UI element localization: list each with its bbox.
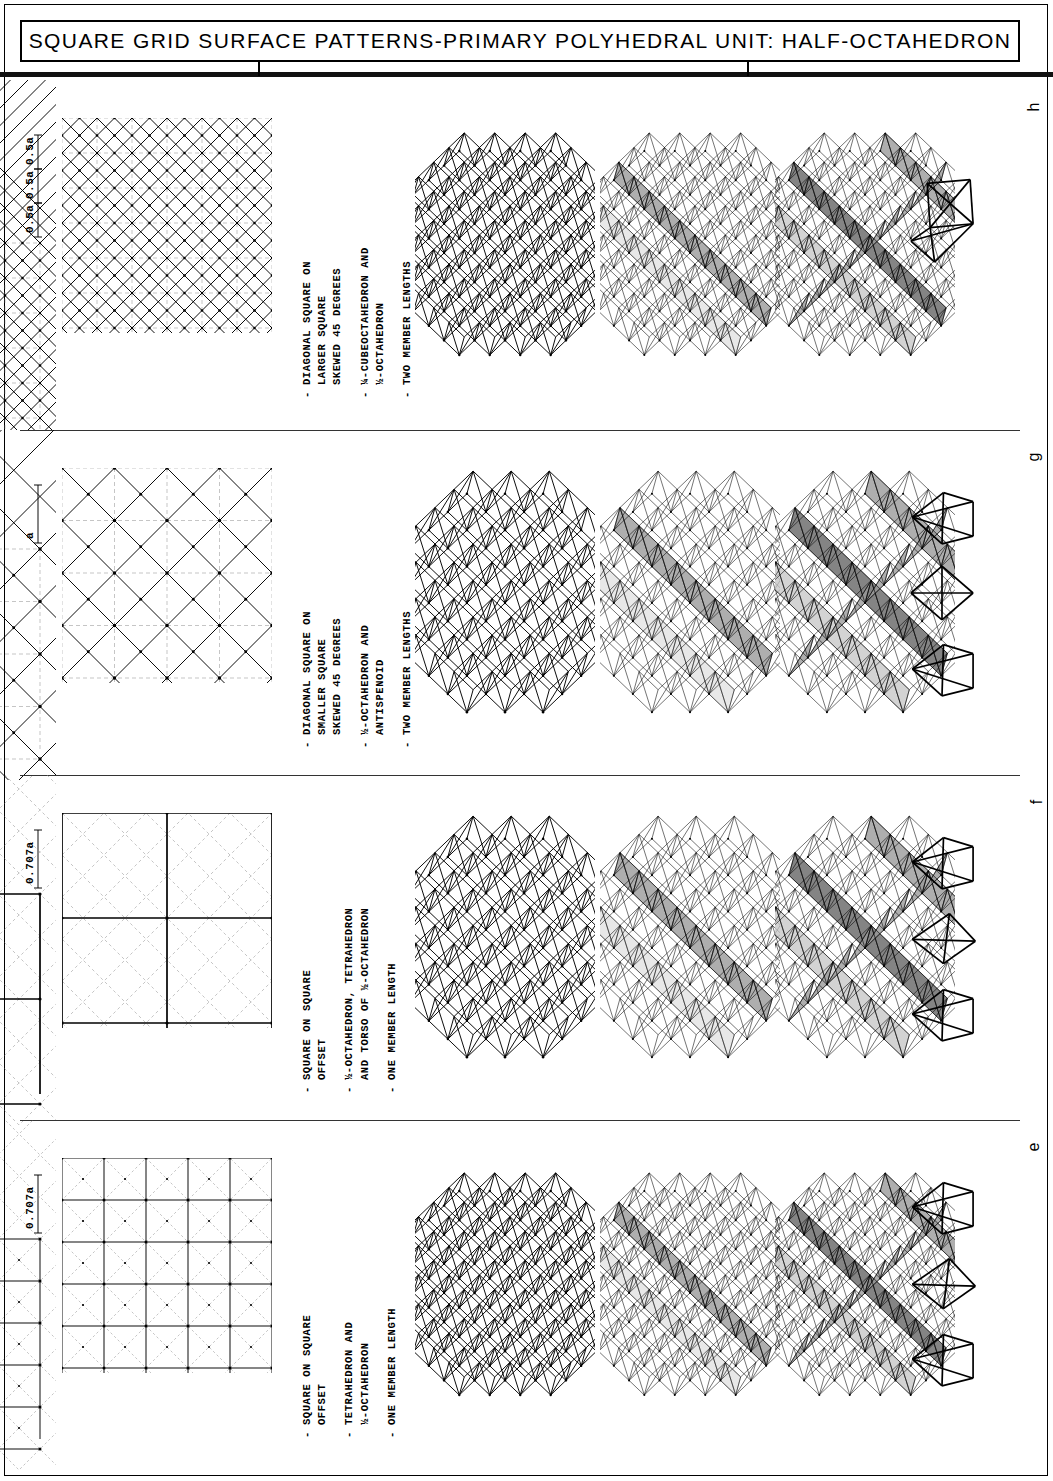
spec-list-f: -SQUARE ON SQUARE OFFSET-½-OCTAHEDRON, T… <box>300 843 412 1093</box>
dimension-strip: 0.707a <box>0 775 56 1125</box>
grid-pattern-e <box>62 1158 272 1373</box>
spec-text: SQUARE ON SQUARE OFFSET <box>300 970 330 1080</box>
spec-item: -DIAGONAL SQUARE ON LARGER SQUARE SKEWED… <box>300 148 346 398</box>
column-letter-g: g <box>1026 453 1044 462</box>
divider-vertical-right <box>747 62 749 76</box>
spec-text: ¼-CUBEOCTAHEDRON AND ½-OCTAHEDRON <box>358 247 388 385</box>
dimension-strip: 0.5a0.5a0.5a <box>0 80 56 430</box>
truss-figure-shaded-truss-partial <box>600 448 780 758</box>
polyhedral-unit-half-oct <box>905 982 979 1046</box>
spec-text: ½-OCTAHEDRON AND ANTISPENOID <box>358 625 388 735</box>
pattern-row-f: f0.707a-SQUARE ON SQUARE OFFSET-½-OCTAHE… <box>0 775 1053 1125</box>
title-underline-rule <box>0 72 1053 77</box>
spec-item: -TWO MEMBER LENGTHS <box>400 148 415 398</box>
polyhedral-unit-group-h <box>905 170 979 278</box>
pattern-row-h: h0.5a0.5a0.5a-DIAGONAL SQUARE ON LARGER … <box>0 80 1053 430</box>
spec-text: ONE MEMBER LENGTH <box>385 1308 400 1425</box>
dimension-label: 0.5a <box>24 137 36 165</box>
polyhedral-unit-tetra <box>905 1251 979 1315</box>
spec-dash: - <box>385 1431 400 1438</box>
spec-dash: - <box>300 391 315 398</box>
polyhedral-unit-half-oct <box>905 1327 979 1391</box>
truss-figure-shaded-truss-partial <box>600 793 780 1103</box>
spec-item: -ONE MEMBER LENGTH <box>385 843 400 1093</box>
spec-item: -TETRAHEDRON AND ½-OCTAHEDRON <box>342 1188 372 1438</box>
spec-dash: - <box>358 741 373 748</box>
row-separator <box>20 430 1020 431</box>
polyhedral-unit-group-f <box>905 830 979 1058</box>
spec-text: DIAGONAL SQUARE ON LARGER SQUARE SKEWED … <box>300 261 346 385</box>
spec-item: -½-OCTAHEDRON, TETRAHEDRON AND TORSO OF … <box>342 843 372 1093</box>
spec-dash: - <box>300 1086 315 1093</box>
dimension-label: 0.5a <box>24 205 36 233</box>
spec-text: SQUARE ON SQUARE OFFSET <box>300 1315 330 1425</box>
spec-dash: - <box>400 741 415 748</box>
column-letter-h: h <box>1026 103 1044 112</box>
column-letter-f: f <box>1028 800 1046 804</box>
spec-item: -SQUARE ON SQUARE OFFSET <box>300 1188 330 1438</box>
spec-text: TWO MEMBER LENGTHS <box>400 261 415 385</box>
spec-text: ONE MEMBER LENGTH <box>385 963 400 1080</box>
column-letter-e: e <box>1026 1143 1044 1152</box>
spec-dash: - <box>300 1431 315 1438</box>
polyhedral-unit-half-oct <box>905 637 979 701</box>
truss-figure-shaded-truss-partial <box>600 98 780 408</box>
spec-dash: - <box>300 741 315 748</box>
polyhedral-unit-tetra <box>905 906 979 970</box>
grid-pattern-f <box>62 813 272 1028</box>
grid-pattern-g <box>62 468 272 683</box>
spec-dash: - <box>342 1086 357 1093</box>
truss-figure-wireframe-truss <box>415 448 595 758</box>
spec-dash: - <box>342 1431 357 1438</box>
spec-item: -SQUARE ON SQUARE OFFSET <box>300 843 330 1093</box>
polyhedral-unit-half-oct <box>905 1175 979 1239</box>
truss-figure-shaded-truss-partial <box>600 1138 780 1448</box>
dimension-label: a <box>24 532 36 539</box>
divider-vertical-left <box>258 62 260 76</box>
polyhedral-unit-group-e <box>905 1175 979 1403</box>
spec-item: -TWO MEMBER LENGTHS <box>400 498 415 748</box>
spec-list-h: -DIAGONAL SQUARE ON LARGER SQUARE SKEWED… <box>300 148 427 398</box>
title-block: SQUARE GRID SURFACE PATTERNS-PRIMARY POL… <box>20 20 1020 62</box>
spec-text: TETRAHEDRON AND ½-OCTAHEDRON <box>342 1322 372 1426</box>
pattern-row-g: ga-DIAGONAL SQUARE ON SMALLER SQUARE SKE… <box>0 430 1053 780</box>
spec-item: -ONE MEMBER LENGTH <box>385 1188 400 1438</box>
spec-text: ½-OCTAHEDRON, TETRAHEDRON AND TORSO OF ½… <box>342 908 372 1081</box>
spec-list-e: -SQUARE ON SQUARE OFFSET-TETRAHEDRON AND… <box>300 1188 412 1438</box>
polyhedral-unit-octa <box>905 561 979 625</box>
truss-figure-wireframe-truss <box>415 793 595 1103</box>
dimension-strip: a <box>0 430 56 780</box>
spec-item: -½-OCTAHEDRON AND ANTISPENOID <box>358 498 388 748</box>
polyhedral-unit-half-oct <box>905 485 979 549</box>
dimension-label: 0.707a <box>24 841 36 884</box>
spec-item: -¼-CUBEOCTAHEDRON AND ½-OCTAHEDRON <box>358 148 388 398</box>
polyhedral-unit-half-oct <box>905 830 979 894</box>
spec-list-g: -DIAGONAL SQUARE ON SMALLER SQUARE SKEWE… <box>300 498 427 748</box>
spec-dash: - <box>385 1086 400 1093</box>
row-separator <box>20 1120 1020 1121</box>
spec-text: TWO MEMBER LENGTHS <box>400 611 415 735</box>
polyhedral-unit-group-g <box>905 485 979 713</box>
grid-pattern-h <box>62 118 272 333</box>
spec-text: DIAGONAL SQUARE ON SMALLER SQUARE SKEWED… <box>300 611 346 735</box>
spec-dash: - <box>358 391 373 398</box>
pattern-row-e: e0.707a-SQUARE ON SQUARE OFFSET-TETRAHED… <box>0 1120 1053 1470</box>
row-separator <box>20 775 1020 776</box>
dimension-label: 0.5a <box>24 171 36 199</box>
dimension-label: 0.707a <box>24 1186 36 1229</box>
spec-dash: - <box>400 391 415 398</box>
dimension-strip: 0.707a <box>0 1120 56 1470</box>
truss-figure-wireframe-truss <box>415 1138 595 1448</box>
truss-figure-wireframe-truss <box>415 98 595 408</box>
spec-item: -DIAGONAL SQUARE ON SMALLER SQUARE SKEWE… <box>300 498 346 748</box>
polyhedral-unit-cubocta <box>905 170 979 266</box>
page-title: SQUARE GRID SURFACE PATTERNS-PRIMARY POL… <box>29 29 1012 53</box>
